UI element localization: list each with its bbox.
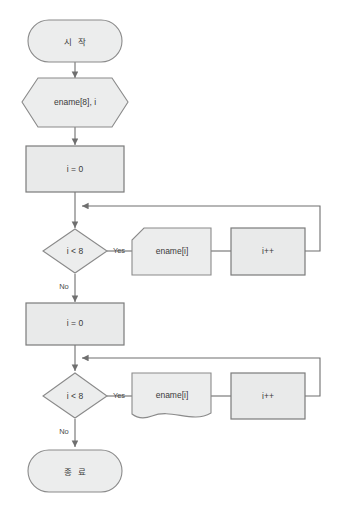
node-declare[interactable]: ename[8], i [22,78,128,127]
edge-label-yes-second: Yes [113,391,125,400]
node-end-label: 종 료 [64,467,89,477]
edge-label-yes-first: Yes [113,246,125,255]
node-incr-second-label: i++ [262,391,274,401]
flowchart-page: 시 작 ename[8], i i = 0 i < 8 ename[i] i++ [0,0,338,511]
node-init-second-label: i = 0 [67,318,84,328]
node-decision-first-label: i < 8 [67,246,84,256]
node-decision-first[interactable]: i < 8 [43,229,107,273]
node-incr-first-label: i++ [262,246,274,256]
node-body-second[interactable]: ename[i] [132,373,211,418]
node-init-first-label: i = 0 [67,164,84,174]
node-body-first[interactable]: ename[i] [132,228,211,275]
node-init-second[interactable]: i = 0 [26,303,124,345]
node-decision-second[interactable]: i < 8 [43,373,107,418]
node-init-first[interactable]: i = 0 [26,146,124,192]
node-body-first-label: ename[i] [156,246,189,256]
node-decision-second-label: i < 8 [67,391,84,401]
edge-label-no-second: No [59,427,69,436]
node-incr-first[interactable]: i++ [231,228,305,275]
node-end[interactable]: 종 료 [28,450,122,492]
node-declare-label: ename[8], i [54,97,96,107]
node-start-label: 시 작 [64,37,89,47]
node-incr-second[interactable]: i++ [231,373,305,419]
node-start[interactable]: 시 작 [28,20,122,62]
edge-label-no-first: No [59,282,69,291]
node-body-second-label: ename[i] [156,390,189,400]
flowchart-canvas: 시 작 ename[8], i i = 0 i < 8 ename[i] i++ [0,0,338,511]
